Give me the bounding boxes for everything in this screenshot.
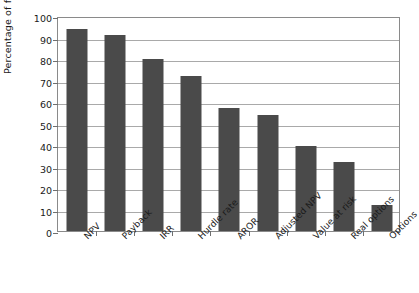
y-tick-label: 50 — [40, 120, 52, 131]
y-tick-label: 80 — [40, 56, 52, 67]
bar-slot — [96, 18, 134, 231]
y-tick-label: 90 — [40, 34, 52, 45]
y-tick-label: 10 — [40, 206, 52, 217]
y-axis-title: Percentage of firms — [2, 0, 16, 74]
bar-slot — [172, 18, 210, 231]
y-tick-label: 40 — [40, 142, 52, 153]
bar — [143, 59, 164, 231]
y-tick-label: 30 — [40, 163, 52, 174]
bar — [181, 76, 202, 231]
bar-slot — [249, 18, 287, 231]
y-tick-label: 20 — [40, 185, 52, 196]
bar — [105, 35, 126, 231]
bar-slot — [58, 18, 96, 231]
y-tick-label: 60 — [40, 99, 52, 110]
bar — [257, 115, 278, 231]
y-tick-label: 100 — [34, 13, 52, 24]
bar-slot — [134, 18, 172, 231]
y-tick-label: 70 — [40, 77, 52, 88]
bar — [67, 29, 88, 231]
x-axis-labels: NPVPaybackIRRHurdle rateARORAdjusted NPV… — [57, 234, 400, 293]
y-tick-label: 0 — [46, 228, 52, 239]
